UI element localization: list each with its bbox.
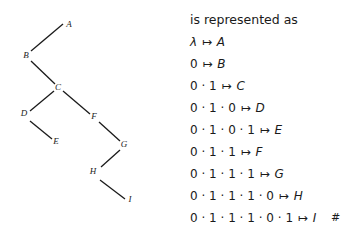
tree-node-d: D — [20, 108, 28, 118]
mapping-row: 0 · 1 · 1 · 1 · 0 · 1 ↦ I# — [190, 207, 357, 227]
tree-node-e: E — [52, 136, 59, 146]
node-label: H — [294, 189, 303, 203]
node-label: C — [236, 79, 244, 93]
maps-to-arrow-icon: ↦ — [260, 167, 270, 181]
mapping-row: 0 · 1 · 0 ↦ D — [190, 97, 357, 119]
maps-to-arrow-icon: ↦ — [279, 189, 289, 203]
representation-list: is represented as λ ↦ A0 ↦ B0 · 1 ↦ C0 ·… — [190, 9, 357, 227]
path-sequence: 0 · 1 · 1 · 1 · 0 · 1 — [190, 211, 293, 225]
node-label: G — [275, 167, 284, 181]
path-sequence: 0 · 1 · 1 — [190, 145, 236, 159]
path-sequence: λ — [190, 35, 197, 49]
path-sequence: 0 · 1 · 0 · 1 — [190, 123, 255, 137]
tree-edge — [31, 24, 63, 51]
mapping-row: 0 · 1 · 0 · 1 ↦ E — [190, 119, 357, 141]
representation-title: is represented as — [190, 9, 357, 31]
mapping-row: 0 · 1 ↦ C — [190, 75, 357, 97]
path-sequence: 0 · 1 · 0 — [190, 101, 236, 115]
maps-to-arrow-icon: ↦ — [202, 35, 212, 49]
tree-edge — [31, 61, 55, 84]
tree-edge — [30, 91, 54, 111]
tree-edge — [63, 91, 90, 114]
tree-node-i: I — [128, 194, 133, 204]
maps-to-arrow-icon: ↦ — [202, 57, 212, 71]
tree-edge — [101, 150, 120, 167]
maps-to-arrow-icon: ↦ — [241, 101, 251, 115]
maps-to-arrow-icon: ↦ — [298, 211, 308, 225]
tree-node-a: A — [65, 19, 72, 29]
tree-edge — [99, 122, 120, 141]
path-sequence: 0 · 1 · 1 · 1 — [190, 167, 255, 181]
tree-node-c: C — [55, 82, 62, 92]
mapping-row: 0 · 1 · 1 · 1 ↦ G — [190, 163, 357, 185]
maps-to-arrow-icon: ↦ — [241, 145, 251, 159]
tree-edge — [100, 180, 125, 199]
node-label: A — [217, 35, 225, 49]
node-label: E — [275, 123, 283, 137]
maps-to-arrow-icon: ↦ — [260, 123, 270, 137]
node-label: F — [256, 145, 263, 159]
end-of-example-mark: # — [331, 207, 340, 227]
binary-tree-diagram: ABCDEFGHI — [0, 0, 185, 227]
tree-edges — [30, 24, 125, 199]
mapping-row: 0 ↦ B — [190, 53, 357, 75]
tree-node-b: B — [23, 50, 29, 60]
maps-to-arrow-icon: ↦ — [222, 79, 232, 93]
tree-edge — [30, 121, 52, 139]
tree-node-h: H — [89, 166, 97, 176]
node-label: D — [256, 101, 265, 115]
node-label: I — [313, 211, 317, 225]
path-sequence: 0 · 1 — [190, 79, 217, 93]
mapping-row: 0 · 1 · 1 · 1 · 0 ↦ H — [190, 185, 357, 207]
path-sequence: 0 — [190, 57, 198, 71]
mapping-row: 0 · 1 · 1 ↦ F — [190, 141, 357, 163]
node-label: B — [217, 57, 225, 71]
tree-node-f: F — [90, 111, 97, 121]
mapping-row: λ ↦ A — [190, 31, 357, 53]
path-sequence: 0 · 1 · 1 · 1 · 0 — [190, 189, 274, 203]
tree-node-g: G — [121, 139, 128, 149]
